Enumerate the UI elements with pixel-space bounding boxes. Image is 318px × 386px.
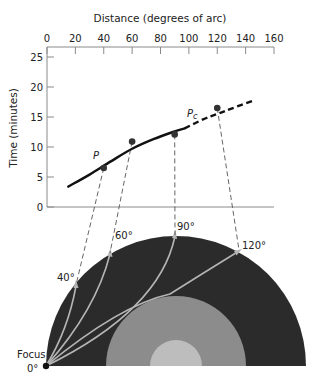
curve-label-pc: Pc [187, 108, 198, 121]
data-point [129, 138, 136, 145]
x-axis-title: Distance (degrees of arc) [94, 12, 227, 24]
y-axis-title: Time (minutes) [7, 88, 19, 169]
projection-line [217, 108, 239, 250]
ray-label-90: 90° [177, 221, 195, 232]
observed-arrival-points [100, 105, 220, 172]
data-point [214, 105, 221, 112]
x-tick-label: 20 [69, 33, 82, 44]
y-tick-labels: 0510152025 [30, 52, 43, 213]
x-tick-label: 40 [97, 33, 110, 44]
x-tick-labels: 020406080100120140160 [44, 33, 284, 44]
x-tick-label: 160 [264, 33, 283, 44]
y-tick-label: 5 [37, 172, 43, 183]
travel-time-curve-p [68, 128, 184, 186]
y-tick-label: 0 [37, 202, 43, 213]
x-tick-label: 60 [126, 33, 139, 44]
focus-label: Focus [17, 349, 46, 360]
data-point [100, 165, 107, 172]
y-tick-label: 20 [30, 82, 43, 93]
x-tick-label: 100 [179, 33, 198, 44]
data-point [171, 131, 178, 138]
curve-label-pc-sub: c [193, 112, 198, 121]
ray-label-40: 40° [57, 272, 75, 283]
y-tick-label: 10 [30, 142, 43, 153]
focus-angle-label: 0° [27, 363, 38, 374]
y-tick-label: 15 [30, 112, 43, 123]
x-tick-label: 0 [44, 33, 50, 44]
y-tick-label: 25 [30, 52, 43, 63]
curve-label-p: P [93, 150, 100, 161]
x-tick-label: 140 [236, 33, 255, 44]
earth-cross-section [46, 236, 306, 366]
ray-label-120: 120° [242, 240, 266, 251]
x-tick-label: 120 [208, 33, 227, 44]
focus-point [43, 363, 49, 369]
chart-axes [47, 47, 274, 207]
seismic-travel-time-diagram: Focus 0° 40° 60° 90° 120° 02040608010012… [0, 0, 318, 386]
x-tick-label: 80 [154, 33, 167, 44]
ray-label-60: 60° [115, 230, 133, 241]
